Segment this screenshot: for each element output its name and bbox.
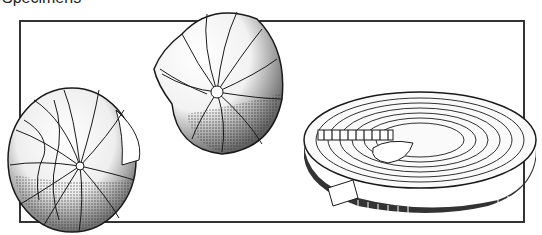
shell-left-illustration [4, 80, 144, 235]
disc-right-illustration [298, 88, 538, 218]
caption-text: Specimens [2, 0, 81, 7]
shell-center-illustration [152, 4, 287, 159]
